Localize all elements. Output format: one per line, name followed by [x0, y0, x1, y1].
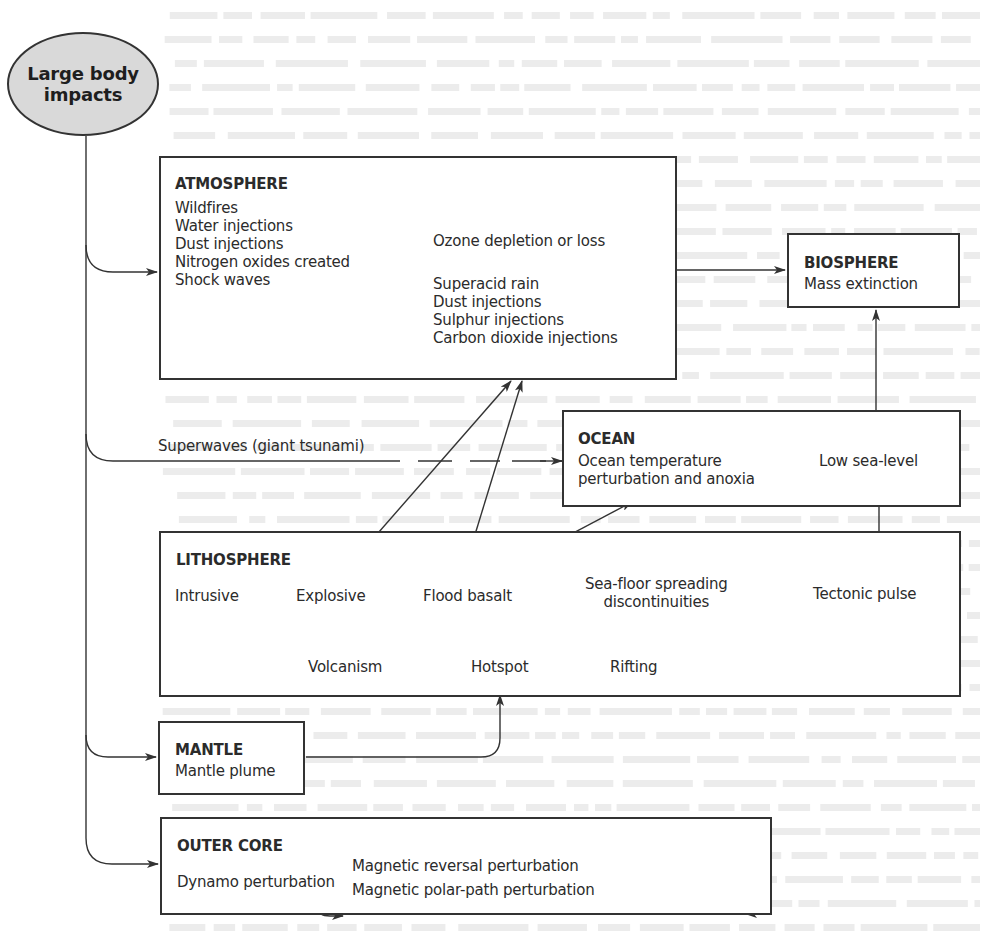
- mantle-title: MANTLE: [175, 741, 243, 759]
- rifting-label: Rifting: [610, 658, 657, 676]
- arrow-mantle-to-hotspot: [306, 695, 500, 757]
- flood-basalt-label: Flood basalt: [423, 587, 512, 605]
- mantle-item: Mantle plume: [175, 762, 275, 780]
- atmosphere-item: Nitrogen oxides created: [175, 253, 350, 271]
- large-body-impacts-node: Large body impacts: [7, 32, 159, 136]
- arrow-impacts-to-mantle: [86, 735, 156, 757]
- atmosphere-effect: Carbon dioxide injections: [433, 329, 618, 347]
- outer-core-box: OUTER CORE Dynamo perturbation Magnetic …: [160, 817, 772, 915]
- biosphere-box: BIOSPHERE Mass extinction: [787, 233, 960, 308]
- ocean-box: OCEAN Ocean temperature perturbation and…: [562, 410, 961, 507]
- intrusive-label: Intrusive: [175, 587, 239, 605]
- seafloor-line: Sea-floor spreading: [585, 575, 728, 593]
- magnetic-polar-path-label: Magnetic polar-path perturbation: [352, 881, 595, 899]
- arrow-impacts-to-outer-core: [86, 838, 158, 864]
- atmosphere-item: Dust injections: [175, 235, 350, 253]
- atmosphere-item: Wildfires: [175, 199, 350, 217]
- atmosphere-effect: Sulphur injections: [433, 311, 618, 329]
- ozone-depletion-label: Ozone depletion or loss: [433, 232, 605, 250]
- ocean-title: OCEAN: [578, 430, 635, 448]
- seafloor-line: discontinuities: [585, 593, 728, 611]
- atmosphere-effect: Superacid rain: [433, 275, 618, 293]
- biosphere-title: BIOSPHERE: [804, 254, 898, 272]
- atmosphere-items: Wildfires Water injections Dust injectio…: [175, 199, 350, 289]
- atmosphere-box: ATMOSPHERE Wildfires Water injections Du…: [159, 156, 677, 380]
- outer-core-title: OUTER CORE: [177, 837, 283, 855]
- ocean-effect: Ocean temperature perturbation and anoxi…: [578, 452, 755, 488]
- low-sea-level-label: Low sea-level: [819, 452, 918, 470]
- mantle-box: MANTLE Mantle plume: [158, 721, 305, 795]
- atmosphere-effect: Dust injections: [433, 293, 618, 311]
- hotspot-label: Hotspot: [471, 658, 528, 676]
- dynamo-perturbation-label: Dynamo perturbation: [177, 873, 335, 891]
- atmosphere-title: ATMOSPHERE: [175, 175, 288, 193]
- ocean-effect-line: Ocean temperature: [578, 452, 755, 470]
- explosive-label: Explosive: [296, 587, 366, 605]
- tectonic-pulse-label: Tectonic pulse: [813, 585, 916, 603]
- ocean-effect-line: perturbation and anoxia: [578, 470, 755, 488]
- atmosphere-effects: Superacid rain Dust injections Sulphur i…: [433, 275, 618, 347]
- magnetic-reversal-label: Magnetic reversal perturbation: [352, 857, 579, 875]
- seafloor-spreading-label: Sea-floor spreading discontinuities: [585, 575, 728, 611]
- biosphere-item: Mass extinction: [804, 275, 918, 293]
- superwaves-label: Superwaves (giant tsunami): [158, 437, 364, 455]
- source-label-line-2: impacts: [44, 84, 123, 105]
- lithosphere-title: LITHOSPHERE: [176, 551, 291, 569]
- source-label-line-1: Large body: [27, 63, 139, 84]
- atmosphere-item: Water injections: [175, 217, 350, 235]
- lithosphere-box: LITHOSPHERE Intrusive Explosive Flood ba…: [159, 531, 961, 697]
- atmosphere-item: Shock waves: [175, 271, 350, 289]
- volcanism-label: Volcanism: [308, 658, 382, 676]
- arrow-impacts-to-atmosphere: [86, 245, 157, 272]
